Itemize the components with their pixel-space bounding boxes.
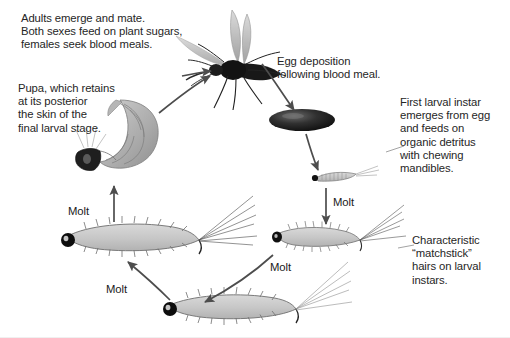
- caption-egg: Egg deposition following blood meal.: [277, 55, 417, 81]
- second-instar-larva-illustration: [272, 205, 406, 252]
- arrow-molt-fourth-to-third: [128, 262, 170, 300]
- mosquito-life-cycle-diagram: Adults emerge and mate. Both sexes feed …: [0, 0, 510, 338]
- egg-illustration: [269, 109, 335, 131]
- molt-label-fourth-to-third: Molt: [106, 283, 127, 295]
- molt-label-second-to-third: Molt: [270, 261, 291, 273]
- caption-pupa: Pupa, which retains at its posterior the…: [18, 82, 148, 135]
- molt-label-first-to-second: Molt: [333, 196, 354, 208]
- molt-label-third-to-pupa: Molt: [68, 205, 89, 217]
- caption-first-instar: First larval instar emerges from egg and…: [400, 96, 508, 175]
- third-instar-larva-illustration: [61, 196, 257, 257]
- fourth-instar-larva-illustration: [163, 262, 352, 325]
- caption-matchstick: Characteristic “matchstick” hairs on lar…: [412, 234, 508, 287]
- caption-adult: Adults emerge and mate. Both sexes feed …: [21, 12, 196, 52]
- arrow-pupa-to-adult: [159, 76, 210, 113]
- arrow-egg-to-first-instar: [306, 134, 318, 170]
- first-instar-larva-illustration: [312, 166, 379, 181]
